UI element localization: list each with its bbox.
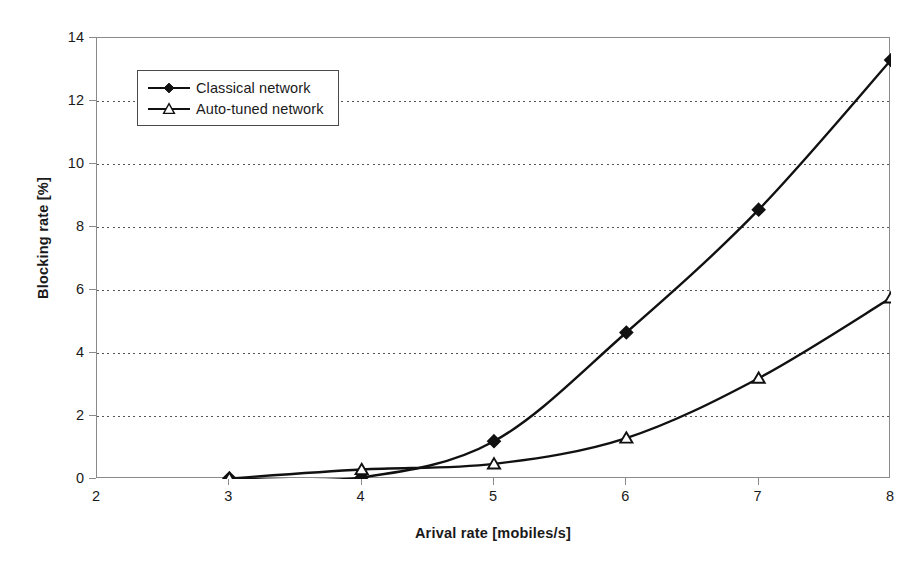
y-axis-tick-mark: [89, 289, 96, 290]
y-axis-tick-mark: [89, 163, 96, 164]
x-axis-tick-label: 4: [331, 489, 391, 504]
x-axis-tick-label: 8: [860, 489, 918, 504]
data-point-marker: [753, 372, 765, 382]
filled-diamond-icon: [148, 79, 190, 97]
y-axis-tick-label: 12: [38, 93, 84, 108]
x-axis-tick-label: 5: [463, 489, 523, 504]
x-axis-tick-label: 3: [198, 489, 258, 504]
y-axis-tick-mark: [89, 415, 96, 416]
y-axis-tick-mark: [89, 100, 96, 101]
data-point-marker: [488, 435, 500, 447]
x-axis-tick-label: 2: [66, 489, 126, 504]
legend-label-classical: Classical network: [196, 80, 311, 96]
legend-item-classical: Classical network: [148, 77, 324, 98]
x-axis-tick-mark: [758, 478, 759, 485]
x-axis-tick-mark: [493, 478, 494, 485]
chart-figure: Blocking rate [%] 024681012142345678 Ari…: [0, 0, 918, 570]
x-axis-tick-label: 7: [728, 489, 788, 504]
y-axis-tick-label: 2: [38, 408, 84, 423]
y-axis-title: Blocking rate [%]: [35, 113, 51, 363]
y-axis-tick-mark: [89, 352, 96, 353]
y-axis-tick-mark: [89, 478, 96, 479]
y-axis-tick-mark: [89, 226, 96, 227]
y-axis-tick-label: 0: [38, 471, 84, 486]
y-axis-tick-mark: [89, 37, 96, 38]
x-axis-tick-mark: [228, 478, 229, 485]
y-axis-tick-label: 14: [38, 30, 84, 45]
chart-legend: Classical network Auto-tuned network: [137, 70, 339, 126]
legend-item-autotuned: Auto-tuned network: [148, 98, 324, 119]
open-triangle-icon: [148, 100, 190, 118]
series-line-autotuned: [229, 298, 891, 478]
data-point-marker: [885, 292, 891, 302]
x-axis-tick-mark: [625, 478, 626, 485]
x-axis-tick-label: 6: [595, 489, 655, 504]
x-axis-tick-mark: [361, 478, 362, 485]
x-axis-title: Arival rate [mobiles/s]: [96, 525, 890, 541]
legend-label-autotuned: Auto-tuned network: [196, 101, 324, 117]
